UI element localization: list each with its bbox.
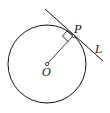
tangent-diagram: P L O: [0, 0, 110, 113]
label-O: O: [42, 66, 51, 79]
radius-OP: [47, 36, 73, 64]
label-P: P: [73, 23, 82, 36]
diagram-canvas: P L O: [0, 0, 110, 113]
label-L: L: [94, 43, 102, 56]
